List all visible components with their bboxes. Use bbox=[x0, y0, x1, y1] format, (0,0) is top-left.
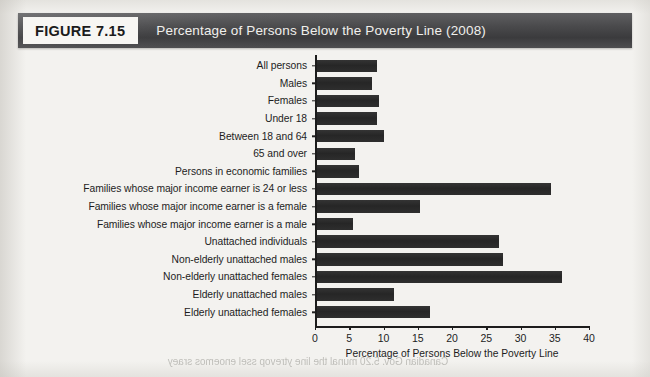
bar-category-label: Persons in economic families bbox=[0, 166, 312, 177]
bar-category-label: Families whose major income earner is a … bbox=[0, 219, 312, 230]
bar-track bbox=[315, 286, 650, 304]
bar bbox=[315, 200, 420, 213]
bar-track bbox=[315, 110, 650, 128]
x-axis-tick bbox=[384, 326, 385, 330]
figure-banner: FIGURE 7.15 Percentage of Persons Below … bbox=[18, 13, 632, 48]
x-axis-tick bbox=[589, 326, 590, 330]
bar-category-label: Families whose major income earner is a … bbox=[0, 201, 312, 212]
bar bbox=[315, 306, 430, 319]
bar bbox=[315, 130, 384, 143]
bar-track bbox=[315, 57, 650, 75]
bar bbox=[315, 165, 359, 178]
chart-bar-row: Males bbox=[0, 75, 650, 93]
bar-track bbox=[315, 180, 650, 198]
bar bbox=[315, 218, 353, 231]
x-axis-tick bbox=[349, 326, 350, 330]
bar-track bbox=[315, 215, 650, 233]
chart-rows: All personsMalesFemalesUnder 18Between 1… bbox=[0, 57, 650, 321]
chart-bar-row: Elderly unattached females bbox=[0, 303, 650, 321]
bar-track bbox=[315, 75, 650, 93]
bar-track bbox=[315, 145, 650, 163]
bar-category-label: Families whose major income earner is 24… bbox=[0, 183, 312, 194]
x-axis-tick bbox=[418, 326, 419, 330]
x-axis-tick bbox=[555, 326, 556, 330]
bar-track bbox=[315, 127, 650, 145]
bar-track bbox=[315, 92, 650, 110]
bar-category-label: Elderly unattached females bbox=[0, 307, 312, 318]
bar bbox=[315, 288, 394, 301]
bar-category-label: All persons bbox=[0, 60, 312, 71]
bar-category-label: Non-elderly unattached females bbox=[0, 271, 312, 282]
bar-category-label: Unattached individuals bbox=[0, 236, 312, 247]
bar-track bbox=[315, 198, 650, 216]
bar-chart: All personsMalesFemalesUnder 18Between 1… bbox=[0, 52, 650, 342]
bar-category-label: 65 and over bbox=[0, 148, 312, 159]
x-axis-tick-label: 15 bbox=[412, 332, 424, 344]
chart-bar-row: Between 18 and 64 bbox=[0, 127, 650, 145]
bar bbox=[315, 95, 379, 108]
chart-bar-row: Families whose major income earner is a … bbox=[0, 215, 650, 233]
bar-track bbox=[315, 303, 650, 321]
x-axis-tick-label: 10 bbox=[378, 332, 390, 344]
bar-category-label: Elderly unattached males bbox=[0, 289, 312, 300]
chart-bar-row: Non-elderly unattached females bbox=[0, 268, 650, 286]
x-axis-tick bbox=[486, 326, 487, 330]
chart-bar-row: Persons in economic families bbox=[0, 163, 650, 181]
bar bbox=[315, 77, 372, 90]
x-axis-tick-label: 20 bbox=[446, 332, 458, 344]
x-axis-tick bbox=[521, 326, 522, 330]
chart-bar-row: Elderly unattached males bbox=[0, 286, 650, 304]
bar-track bbox=[315, 163, 650, 181]
bar-category-label: Between 18 and 64 bbox=[0, 131, 312, 142]
bar-track bbox=[315, 233, 650, 251]
bar bbox=[315, 235, 499, 248]
x-axis-title: Percentage of Persons Below the Poverty … bbox=[315, 348, 589, 359]
chart-bar-row: Females bbox=[0, 92, 650, 110]
figure-title: Percentage of Persons Below the Poverty … bbox=[156, 23, 486, 38]
x-axis-tick bbox=[315, 326, 316, 330]
chart-bar-row: All persons bbox=[0, 57, 650, 75]
bar-track bbox=[315, 251, 650, 269]
chart-bar-row: Unattached individuals bbox=[0, 233, 650, 251]
x-axis-tick bbox=[452, 326, 453, 330]
bar-category-label: Non-elderly unattached males bbox=[0, 254, 312, 265]
bar-category-label: Females bbox=[0, 95, 312, 106]
bar bbox=[315, 112, 377, 125]
x-axis-tick-label: 25 bbox=[480, 332, 492, 344]
bar-category-label: Under 18 bbox=[0, 113, 312, 124]
bar bbox=[315, 60, 377, 73]
bar bbox=[315, 271, 562, 284]
y-axis-line bbox=[315, 55, 317, 326]
bar bbox=[315, 183, 551, 196]
bar-category-label: Males bbox=[0, 78, 312, 89]
x-axis-tick-label: 30 bbox=[515, 332, 527, 344]
chart-bar-row: Non-elderly unattached males bbox=[0, 251, 650, 269]
bar bbox=[315, 148, 355, 161]
x-axis-tick-label: 5 bbox=[346, 332, 352, 344]
chart-bar-row: Under 18 bbox=[0, 110, 650, 128]
bar bbox=[315, 253, 503, 266]
chart-bar-row: Families whose major income earner is a … bbox=[0, 198, 650, 216]
figure-number: FIGURE 7.15 bbox=[23, 17, 138, 44]
x-axis-tick-label: 40 bbox=[583, 332, 595, 344]
chart-bar-row: Families whose major income earner is 24… bbox=[0, 180, 650, 198]
x-axis-tick-label: 35 bbox=[549, 332, 561, 344]
chart-bar-row: 65 and over bbox=[0, 145, 650, 163]
x-axis-tick-label: 0 bbox=[312, 332, 318, 344]
bar-track bbox=[315, 268, 650, 286]
